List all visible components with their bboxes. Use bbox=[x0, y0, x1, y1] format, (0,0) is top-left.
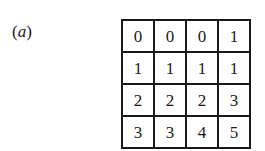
grid-cell: 0 bbox=[122, 20, 154, 52]
grid-row: 2 2 2 3 bbox=[122, 84, 250, 116]
grid-cell: 3 bbox=[122, 116, 154, 148]
grid-cell: 1 bbox=[154, 52, 186, 84]
grid-cell: 2 bbox=[186, 84, 218, 116]
grid-row: 3 3 4 5 bbox=[122, 116, 250, 148]
grid-cell: 0 bbox=[186, 20, 218, 52]
grid-row: 0 0 0 1 bbox=[122, 20, 250, 52]
figure-label: (a) bbox=[12, 22, 32, 42]
grid-cell: 4 bbox=[186, 116, 218, 148]
grid-cell: 0 bbox=[154, 20, 186, 52]
grid-cell: 1 bbox=[218, 52, 250, 84]
grid-cell: 1 bbox=[122, 52, 154, 84]
number-grid: 0 0 0 1 1 1 1 1 2 2 2 3 3 3 4 5 bbox=[121, 19, 251, 149]
label-close-paren: ) bbox=[26, 22, 32, 41]
grid-cell: 2 bbox=[154, 84, 186, 116]
grid-cell: 1 bbox=[186, 52, 218, 84]
grid-cell: 5 bbox=[218, 116, 250, 148]
grid-cell: 2 bbox=[122, 84, 154, 116]
grid-row: 1 1 1 1 bbox=[122, 52, 250, 84]
label-letter: a bbox=[18, 22, 27, 41]
grid-cell: 1 bbox=[218, 20, 250, 52]
grid-cell: 3 bbox=[154, 116, 186, 148]
grid-cell: 3 bbox=[218, 84, 250, 116]
